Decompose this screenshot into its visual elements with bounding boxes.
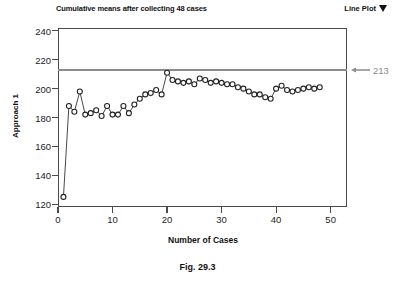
y-tick-label: 240 — [35, 25, 51, 36]
x-tick-label: 10 — [107, 214, 118, 225]
arrow-left-icon — [351, 66, 371, 73]
reference-annotation: 213 — [351, 64, 389, 75]
x-tick-label: 30 — [216, 214, 227, 225]
x-tick-mark — [330, 207, 331, 213]
y-tick-mark — [52, 175, 58, 176]
x-axis-title: Number of Cases — [58, 235, 348, 245]
y-tick-label: 140 — [35, 170, 51, 181]
x-tick-mark — [112, 207, 113, 213]
reference-line-213 — [58, 69, 347, 72]
x-tick-label: 20 — [162, 214, 173, 225]
y-tick-label: 180 — [35, 112, 51, 123]
figure-container: Cumulative means after collecting 48 cas… — [0, 0, 395, 282]
y-tick-label: 200 — [35, 83, 51, 94]
x-tick-label: 40 — [271, 214, 282, 225]
x-tick-mark — [57, 207, 58, 213]
y-tick-mark — [52, 59, 58, 60]
y-tick-mark — [52, 204, 58, 205]
figure-caption: Fig. 29.3 — [0, 262, 395, 272]
chart-title: Cumulative means after collecting 48 cas… — [56, 4, 207, 13]
plot-type-label: Line Plot — [344, 4, 376, 13]
y-axis-title: Approach 1 — [11, 26, 20, 206]
y-tick-mark — [52, 30, 58, 31]
x-tick-label: 50 — [325, 214, 336, 225]
reference-value-label: 213 — [373, 64, 389, 75]
y-tick-label: 220 — [35, 54, 51, 65]
plot-area — [58, 28, 347, 207]
y-tick-mark — [52, 88, 58, 89]
y-tick-label: 120 — [35, 199, 51, 210]
x-tick-mark — [166, 207, 167, 213]
y-tick-label: 160 — [35, 141, 51, 152]
plot-type-dropdown[interactable]: Line Plot — [344, 4, 387, 13]
x-tick-mark — [276, 207, 277, 213]
x-tick-mark — [221, 207, 222, 213]
x-tick-label: 0 — [55, 214, 60, 225]
chevron-down-icon[interactable] — [379, 5, 387, 12]
y-tick-mark — [52, 117, 58, 118]
y-tick-mark — [52, 146, 58, 147]
